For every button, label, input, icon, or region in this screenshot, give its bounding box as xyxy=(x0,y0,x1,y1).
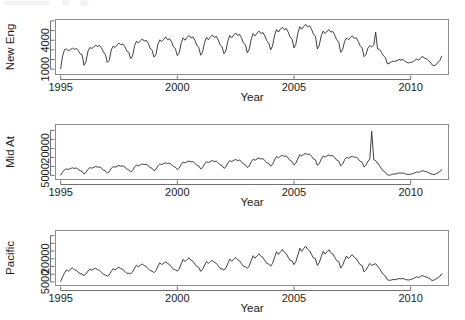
x-tick-label: 2010 xyxy=(398,81,422,93)
panel-mid-at-svg: 500020000 1995200020052010 Mid At Year xyxy=(0,105,465,212)
x-tick-label: 1995 xyxy=(48,292,72,304)
y-axis-title-pacific: Pacific xyxy=(4,241,16,275)
x-axis-title-mid-at: Year xyxy=(240,196,263,208)
y-tick-label: 4000 xyxy=(39,28,51,52)
y-tick-label: 5000 xyxy=(39,163,51,187)
panel-mid-at: 500020000 1995200020052010 Mid At Year xyxy=(0,105,465,212)
series-line-mid-at xyxy=(61,131,442,175)
y-tick-label: 1000 xyxy=(39,57,51,81)
panel-mid-at-plot-area xyxy=(56,125,449,180)
panel-new-eng: 10004000 1995200020052010 New Eng Year xyxy=(0,0,465,107)
panel-mid-at-y-axis: 500020000 xyxy=(39,130,55,187)
y-axis-title-mid-at: Mid At xyxy=(4,135,16,168)
x-tick-label: 2000 xyxy=(165,186,189,198)
series-line-new-eng xyxy=(61,24,442,68)
series-line-pacific xyxy=(61,246,442,281)
x-tick-label: 2005 xyxy=(282,186,306,198)
panel-mid-at-x-axis: 1995200020052010 xyxy=(48,181,422,199)
panel-pacific-x-axis: 1995200020052010 xyxy=(48,287,422,305)
panel-new-eng-x-axis: 1995200020052010 xyxy=(48,76,422,94)
x-tick-label: 2005 xyxy=(282,292,306,304)
panel-new-eng-svg: 10004000 1995200020052010 New Eng Year xyxy=(0,0,465,107)
panel-new-eng-y-axis: 10004000 xyxy=(39,21,55,81)
x-axis-title-new-eng: Year xyxy=(240,91,263,103)
panel-pacific-svg: 500020000 1995200020052010 Pacific Year xyxy=(0,211,465,320)
panel-pacific: 500020000 1995200020052010 Pacific Year xyxy=(0,211,465,320)
x-tick-label: 2000 xyxy=(165,292,189,304)
y-tick-label: 20000 xyxy=(39,243,51,274)
panel-pacific-plot-area xyxy=(56,231,449,286)
x-tick-label: 1995 xyxy=(48,81,72,93)
x-tick-label: 2010 xyxy=(398,186,422,198)
x-tick-label: 1995 xyxy=(48,186,72,198)
x-axis-title-pacific: Year xyxy=(240,302,263,314)
multi-panel-time-series-figure: 10004000 1995200020052010 New Eng Year 5… xyxy=(0,0,465,320)
plot-box xyxy=(56,125,449,180)
y-axis-title-new-eng: New Eng xyxy=(4,24,16,71)
x-tick-label: 2000 xyxy=(165,81,189,93)
x-tick-label: 2005 xyxy=(282,81,306,93)
panel-new-eng-plot-area xyxy=(56,20,449,75)
x-tick-label: 2010 xyxy=(398,292,422,304)
panel-pacific-y-axis: 500020000 xyxy=(39,236,55,295)
y-tick-label: 20000 xyxy=(39,133,51,164)
